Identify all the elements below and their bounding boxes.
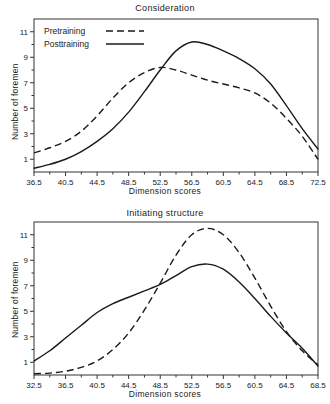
x-axis-label-consideration: Dimension scores xyxy=(0,186,330,196)
y-tick-label-initiating-structure-1: 3 xyxy=(24,333,29,342)
plot-frame-initiating-structure xyxy=(34,222,318,375)
y-tick-label-consideration-5: 11 xyxy=(20,28,29,37)
chart-title-initiating-structure: Initiating structure xyxy=(0,208,330,218)
y-axis-label-initiating-structure: Number of foremen xyxy=(10,261,20,338)
figure-two-panel-line-charts: Consideration Number of foremen Dimensio… xyxy=(0,0,330,404)
y-tick-label-initiating-structure-5: 11 xyxy=(20,231,29,240)
curve-consideration-posttraining xyxy=(34,42,318,169)
chart-panel-consideration: Consideration Number of foremen Dimensio… xyxy=(0,0,330,200)
y-tick-label-consideration-3: 7 xyxy=(24,79,29,88)
y-tick-label-consideration-0: 1 xyxy=(24,155,29,164)
curve-initiating-structure-pretraining xyxy=(34,228,318,373)
chart-title-consideration: Consideration xyxy=(0,3,330,13)
legend-label-posttraining: Posttraining xyxy=(44,39,89,49)
x-axis-label-initiating-structure: Dimension scores xyxy=(0,389,330,399)
y-tick-label-consideration-1: 3 xyxy=(24,130,29,139)
y-tick-label-initiating-structure-4: 9 xyxy=(24,256,29,265)
y-tick-label-initiating-structure-0: 1 xyxy=(24,358,29,367)
chart-panel-initiating-structure: Initiating structure Number of foremen D… xyxy=(0,200,330,404)
chart-svg-consideration: 36.540.544.548.552.556.560.564.568.572.5… xyxy=(0,0,330,200)
y-tick-label-consideration-4: 9 xyxy=(24,53,29,62)
legend-label-pretraining: Pretraining xyxy=(44,26,85,36)
y-tick-label-initiating-structure-3: 7 xyxy=(24,282,29,291)
y-tick-label-initiating-structure-2: 5 xyxy=(24,307,29,316)
curve-consideration-pretraining xyxy=(34,67,318,159)
chart-svg-initiating-structure: 32.536.540.544.548.552.556.560.564.568.5… xyxy=(0,200,330,404)
y-tick-label-consideration-2: 5 xyxy=(24,104,29,113)
y-axis-label-consideration: Number of foremen xyxy=(10,63,20,140)
